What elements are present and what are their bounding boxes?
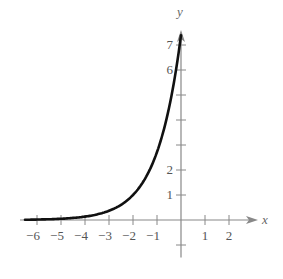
x-tick-label: −1	[146, 228, 160, 243]
exponential-curve	[25, 35, 181, 219]
y-axis-label: y	[175, 4, 183, 19]
x-tick-label: −5	[50, 228, 64, 243]
x-tick-label: 1	[202, 228, 209, 243]
y-tick-label: 1	[167, 187, 174, 202]
x-tick-label: 2	[226, 228, 233, 243]
x-tick-label: −6	[26, 228, 40, 243]
y-tick-label: 6	[167, 62, 174, 77]
chart-container: −6−5−4−3−2−1121267xy	[0, 0, 283, 279]
y-tick-label: 7	[167, 37, 174, 52]
x-axis-label: x	[261, 212, 268, 227]
exponential-graph: −6−5−4−3−2−1121267xy	[0, 0, 283, 279]
x-tick-label: −2	[122, 228, 136, 243]
y-tick-label: 2	[167, 162, 174, 177]
x-tick-label: −3	[98, 228, 112, 243]
x-tick-label: −4	[74, 228, 88, 243]
